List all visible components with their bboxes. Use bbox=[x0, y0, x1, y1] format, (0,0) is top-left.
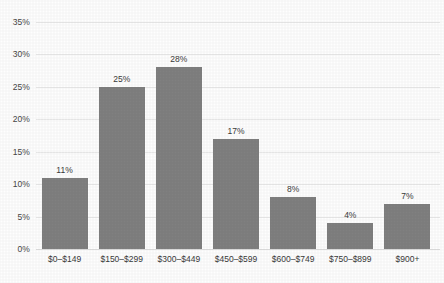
y-axis-tick-label: 35% bbox=[0, 17, 30, 27]
bar-value-label: 25% bbox=[99, 74, 145, 84]
bar-value-label: 11% bbox=[42, 165, 88, 175]
bar-value-label: 8% bbox=[270, 184, 316, 194]
gridline bbox=[36, 249, 440, 250]
bars-layer: 11%25%28%17%8%4%7% bbox=[36, 22, 440, 249]
bar bbox=[99, 87, 145, 249]
y-axis-tick-label: 15% bbox=[0, 147, 30, 157]
x-axis-tick-label: $900+ bbox=[371, 254, 443, 264]
bar bbox=[384, 204, 430, 249]
y-axis-tick-label: 25% bbox=[0, 82, 30, 92]
bar-value-label: 17% bbox=[213, 126, 259, 136]
bar bbox=[42, 178, 88, 249]
bar-value-label: 4% bbox=[327, 210, 373, 220]
bar bbox=[270, 197, 316, 249]
bar-value-label: 7% bbox=[384, 191, 430, 201]
bar bbox=[213, 139, 259, 249]
plot-area: 11%25%28%17%8%4%7% bbox=[36, 22, 440, 249]
y-axis-tick-label: 30% bbox=[0, 49, 30, 59]
bar-value-label: 28% bbox=[156, 54, 202, 64]
bar bbox=[156, 67, 202, 249]
x-axis: $0–$149$150–$299$300–$449$450–$599$600–$… bbox=[36, 254, 440, 274]
bar bbox=[327, 223, 373, 249]
y-axis-tick-label: 5% bbox=[0, 212, 30, 222]
bar-chart: 11%25%28%17%8%4%7% $0–$149$150–$299$300–… bbox=[0, 0, 444, 283]
y-axis-tick-label: 20% bbox=[0, 114, 30, 124]
y-axis-tick-label: 0% bbox=[0, 244, 30, 254]
y-axis-tick-label: 10% bbox=[0, 179, 30, 189]
